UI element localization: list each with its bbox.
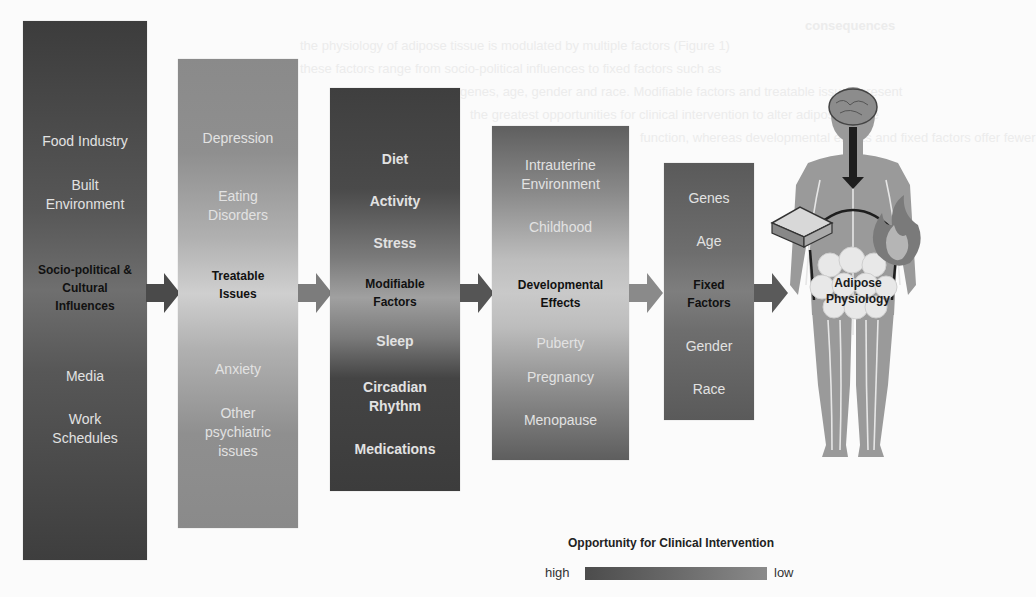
item-circadian-rhythm: Circadian Rhythm [330,378,460,416]
column-developmental-effects: Intrauterine Environment Childhood Devel… [492,126,629,460]
item-media: Media [23,367,147,386]
item-sleep: Sleep [330,332,460,351]
background-line: the physiology of adipose tissue is modu… [300,34,730,57]
item-intrauterine-environment: Intrauterine Environment [492,156,629,194]
legend-gradient-bar [585,567,767,580]
item-stress: Stress [330,234,460,253]
brain-icon [829,89,877,125]
hub-fixed-factors: Fixed Factors [664,276,754,312]
item-menopause: Menopause [492,411,629,430]
item-gender: Gender [664,337,754,356]
background-line: these factors range from socio-political… [300,57,721,80]
item-other-psychiatric-issues: Other psychiatric issues [178,404,298,461]
legend-title: Opportunity for Clinical Intervention [556,536,786,550]
column-treatable-issues: Depression Eating Disorders Treatable Is… [178,59,298,528]
item-food-industry: Food Industry [23,132,147,151]
column-fixed-factors: Genes Age Fixed Factors Gender Race [664,163,754,420]
item-diet: Diet [330,150,460,169]
legend-high-label: high [545,564,570,582]
item-eating-disorders: Eating Disorders [178,187,298,225]
legend-low-label: low [774,564,794,582]
item-built-environment: Built Environment [23,176,147,214]
hub-treatable-issues: Treatable Issues [178,267,298,303]
column-socio-political: Food Industry Built Environment Socio-po… [23,21,147,560]
target-label: Adipose Physiology [808,275,908,307]
item-work-schedules: Work Schedules [23,410,147,448]
item-pregnancy: Pregnancy [492,368,629,387]
hub-modifiable-factors: Modifiable Factors [330,275,460,311]
item-genes: Genes [664,189,754,208]
item-age: Age [664,232,754,251]
item-anxiety: Anxiety [178,360,298,379]
background-heading: consequences [805,14,895,37]
item-puberty: Puberty [492,334,629,353]
hub-socio-political: Socio-political & Cultural Influences [23,261,147,315]
item-medications: Medications [330,440,460,459]
arrow-right-icon [298,273,332,313]
arrow-right-icon [460,273,494,313]
hub-developmental-effects: Developmental Effects [492,276,629,312]
item-depression: Depression [178,129,298,148]
column-modifiable-factors: Diet Activity Stress Modifiable Factors … [330,88,460,491]
item-race: Race [664,380,754,399]
item-activity: Activity [330,192,460,211]
arrow-right-icon [629,273,663,313]
item-childhood: Childhood [492,218,629,237]
arrow-right-icon [146,273,180,313]
